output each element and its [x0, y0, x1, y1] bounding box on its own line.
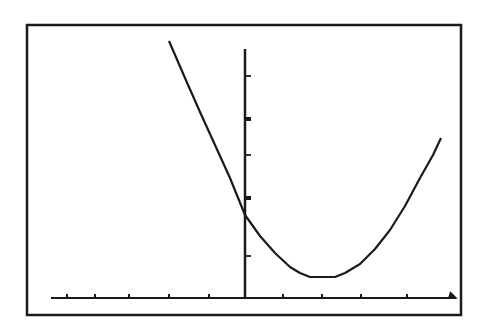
axis-ticks	[67, 76, 407, 298]
parabola-curve	[169, 41, 441, 277]
axes	[51, 49, 456, 298]
parabola-plot	[0, 0, 485, 333]
x-axis-end-mark	[448, 292, 456, 298]
